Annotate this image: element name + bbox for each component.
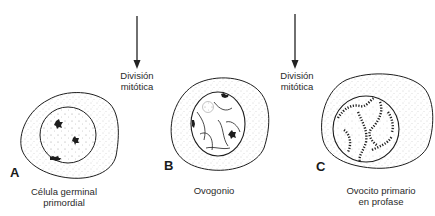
arrow-label-line1: División [280, 71, 313, 82]
caption-cell-b: Ovogonio [194, 186, 235, 197]
diagram-artwork [0, 0, 435, 216]
caption-cell-c: Ovocito primario en profase [346, 186, 415, 207]
caption-line1: Ovocito primario [346, 186, 415, 197]
panel-letter-a: A [10, 166, 19, 179]
arrow-label-division-mitotica-2: División mitótica [280, 71, 313, 92]
caption-line1: Ovogonio [194, 186, 235, 197]
caption-line2: en profase [346, 197, 415, 208]
arrow-label-line2: mitótica [120, 82, 153, 93]
arrow-label-line2: mitótica [280, 82, 313, 93]
arrow-down-icon [134, 16, 141, 69]
nucleolus [203, 102, 214, 113]
arrow-label-line1: División [120, 71, 153, 82]
arrow-down-icon [292, 14, 299, 69]
panel-letter-c: C [316, 160, 325, 173]
oogenesis-diagram: División mitótica División mitótica A B … [0, 0, 435, 216]
cell-c-ovocito-primario [322, 74, 433, 168]
caption-line1: Célula germinal [31, 187, 97, 198]
cell-b-ovogonio [171, 78, 269, 170]
arrow-label-division-mitotica-1: División mitótica [120, 71, 153, 92]
cell-a-germinal-primordial [21, 93, 119, 179]
caption-cell-a: Célula germinal primordial [31, 187, 97, 208]
caption-line2: primordial [31, 198, 97, 209]
panel-letter-b: B [164, 159, 173, 172]
